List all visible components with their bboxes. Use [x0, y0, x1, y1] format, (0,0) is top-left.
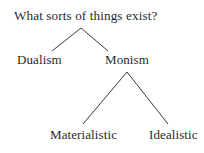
root-question: What sorts of things exist?	[14, 9, 157, 22]
node-monism: Monism	[105, 53, 149, 66]
edge-root-to-dualism	[52, 28, 81, 51]
node-materialistic: Materialistic	[50, 128, 117, 141]
node-idealistic: Idealistic	[149, 128, 198, 141]
edge-root-to-monism	[81, 28, 108, 51]
edge-monism-to-materialistic	[83, 72, 127, 124]
node-dualism: Dualism	[17, 53, 62, 66]
edge-monism-to-idealistic	[127, 72, 168, 124]
